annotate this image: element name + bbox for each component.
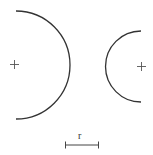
scale-bar [65,142,99,149]
scale-bar-label: r [78,131,81,141]
right-arc [106,31,141,102]
left-arc [16,11,70,119]
left-center-cross-icon [10,60,19,69]
right-center-cross-icon [137,62,146,71]
diagram-canvas [0,0,153,155]
